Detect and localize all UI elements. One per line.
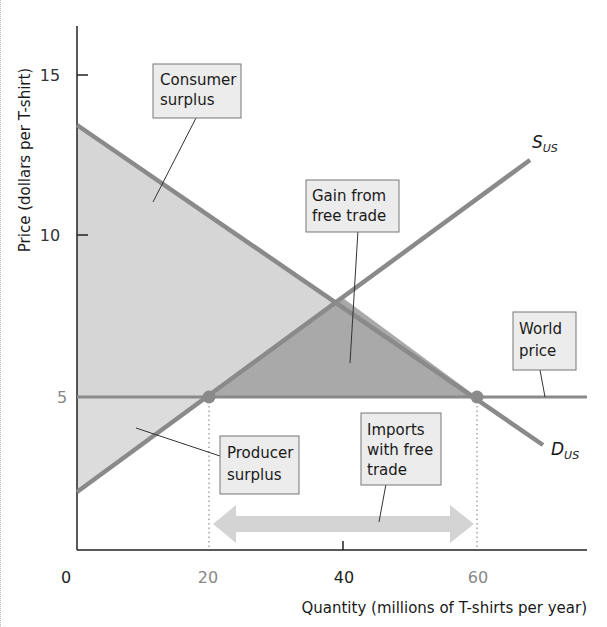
world-price-leader — [540, 370, 545, 397]
x-tick-label-0: 0 — [61, 568, 71, 587]
domestic-consumption-point — [471, 391, 484, 404]
y-tick-label-5: 5 — [57, 388, 67, 407]
y-tick-label-15: 15 — [40, 66, 60, 85]
x-tick-label-60: 60 — [468, 568, 488, 587]
svg-text:surplus: surplus — [227, 466, 282, 484]
consumer-surplus-annotation: Consumer surplus — [153, 64, 241, 118]
svg-text:price: price — [519, 342, 556, 360]
svg-text:Gain from: Gain from — [312, 187, 386, 205]
svg-text:Producer: Producer — [227, 444, 294, 462]
svg-text:trade: trade — [367, 461, 407, 479]
imports-annotation: Imports with free trade — [361, 413, 441, 485]
svg-text:with free: with free — [367, 441, 433, 459]
svg-text:World: World — [519, 320, 562, 338]
svg-text:surplus: surplus — [160, 91, 215, 109]
svg-text:free trade: free trade — [312, 207, 386, 225]
demand-label: DUS — [551, 439, 579, 462]
x-tick-label-20: 20 — [198, 568, 218, 587]
domestic-production-point — [203, 391, 216, 404]
y-axis-label: Price (dollars per T-shirt) — [16, 68, 34, 252]
producer-surplus-annotation: Producer surplus — [220, 436, 299, 494]
y-tick-label-10: 10 — [40, 226, 60, 245]
gain-from-trade-annotation: Gain from free trade — [306, 180, 399, 232]
svg-text:Consumer: Consumer — [160, 71, 237, 89]
chart: 15 10 5 0 20 40 60 Price (dollars per T-… — [0, 0, 607, 627]
x-tick-label-40: 40 — [334, 568, 354, 587]
supply-label: SUS — [532, 132, 558, 155]
svg-text:Imports: Imports — [367, 421, 425, 439]
world-price-annotation: World price — [513, 312, 576, 370]
imports-arrow — [213, 505, 474, 543]
x-axis-label: Quantity (millions of T-shirts per year) — [301, 599, 587, 617]
